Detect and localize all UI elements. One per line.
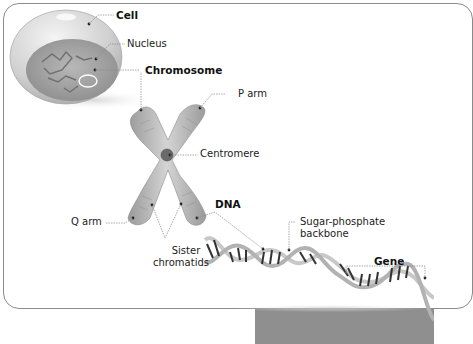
- cell: [10, 10, 155, 110]
- nucleus: [26, 39, 118, 101]
- p-arm-leader: [200, 94, 226, 108]
- dna-shadow: [230, 304, 430, 312]
- label-sugar-phosphate-line1: Sugar-phosphate: [300, 216, 385, 228]
- sugar-phosphate-leader: [289, 222, 296, 250]
- label-chromosome: Chromosome: [145, 64, 222, 76]
- label-dna: DNA: [215, 198, 241, 210]
- label-sister-chromatids: Sister chromatids: [153, 245, 209, 269]
- label-sugar-phosphate: Sugar-phosphate backbone: [300, 216, 385, 240]
- label-sister-chromatids-line2: chromatids: [153, 257, 209, 269]
- label-gene: Gene: [374, 255, 404, 267]
- label-nucleus: Nucleus: [127, 38, 167, 50]
- label-sugar-phosphate-line2: backbone: [300, 228, 385, 240]
- label-centromere: Centromere: [200, 148, 259, 160]
- dna-leader: [197, 212, 263, 249]
- label-sister-chromatids-line1: Sister: [153, 245, 209, 257]
- cell-highlight: [56, 14, 76, 21]
- chromosome: [128, 105, 206, 226]
- sister-chromatids-leader: [152, 204, 181, 238]
- label-q-arm: Q arm: [71, 216, 102, 228]
- label-p-arm: P arm: [238, 88, 267, 100]
- label-cell: Cell: [116, 9, 138, 21]
